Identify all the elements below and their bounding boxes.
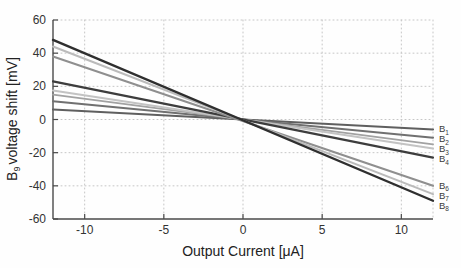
y-tick-label: -60	[29, 212, 47, 226]
y-tick-label: 20	[33, 79, 47, 93]
x-axis-title: Output Current [μA]	[53, 243, 433, 259]
y-tick-label: -40	[29, 179, 47, 193]
series-label-subscript: 6	[445, 185, 449, 192]
x-tick-label: 0	[240, 223, 247, 237]
y-tick-label: 0	[39, 113, 46, 127]
y-tick-label: 40	[33, 46, 47, 60]
y-tick-label: 60	[33, 13, 47, 27]
y-axis-title-rest: voltage shift [mV]	[4, 57, 20, 164]
series-label-subscript: 2	[445, 139, 449, 146]
x-tick-label: 10	[395, 223, 409, 237]
chart-figure: -10-50510-60-40-200204060B1B2B3B4B6B7B8 …	[0, 0, 461, 268]
series-label-subscript: 1	[445, 129, 449, 136]
y-axis-title-subscript: 9	[12, 167, 22, 172]
x-tick-label: -5	[158, 223, 169, 237]
series-label-subscript: 3	[445, 149, 449, 156]
series-label-subscript: 7	[445, 195, 449, 202]
x-tick-label: -10	[76, 223, 94, 237]
y-tick-label: -20	[29, 146, 47, 160]
line-chart: -10-50510-60-40-200204060B1B2B3B4B6B7B8	[0, 0, 461, 268]
y-axis-title: B9voltage shift [mV]	[4, 57, 23, 181]
series-label-subscript: 4	[445, 159, 449, 166]
y-axis-title-base: B	[4, 172, 20, 181]
x-tick-label: 5	[319, 223, 326, 237]
series-label-subscript: 8	[445, 205, 449, 212]
